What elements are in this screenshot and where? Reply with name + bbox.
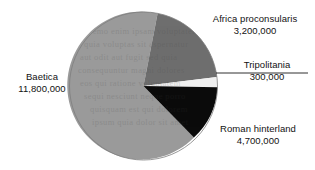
svg-text:consequuntur magni dolores: consequuntur magni dolores xyxy=(78,65,185,75)
svg-text:nemo enim ipsam voluptatem: nemo enim ipsam voluptatem xyxy=(88,26,199,36)
slice-label-roman-hinterland-name: Roman hinterland xyxy=(220,123,296,134)
slice-label-roman-hinterland-value: 4,700,000 xyxy=(202,135,314,147)
svg-text:eos qui ratione voluptatem: eos qui ratione voluptatem xyxy=(80,78,181,88)
slice-label-baetica: Baetica 11,800,000 xyxy=(2,71,82,94)
slice-label-tripolitania-name: Tripolitania xyxy=(244,59,291,70)
slice-label-africa-proconsularis-value: 3,200,000 xyxy=(196,25,314,37)
pie-chart-figure: nemo enim ipsam voluptatem quia voluptas… xyxy=(0,0,315,170)
slice-label-baetica-name: Baetica xyxy=(26,71,58,82)
svg-text:quisquam est qui dolorem: quisquam est qui dolorem xyxy=(90,104,188,114)
slice-label-baetica-value: 11,800,000 xyxy=(2,83,82,95)
svg-text:quia voluptas sit aspernatur: quia voluptas sit aspernatur xyxy=(84,39,188,49)
slice-label-africa-proconsularis: Africa proconsularis 3,200,000 xyxy=(196,13,314,36)
slice-label-roman-hinterland: Roman hinterland 4,700,000 xyxy=(202,123,314,146)
svg-text:aut odit aut fugit sed quia: aut odit aut fugit sed quia xyxy=(80,52,177,62)
slice-label-tripolitania-value: 300,000 xyxy=(224,71,310,83)
slice-label-tripolitania: Tripolitania 300,000 xyxy=(224,59,310,82)
slice-label-africa-proconsularis-name: Africa proconsularis xyxy=(213,13,297,24)
svg-text:ipsum quia dolor sit amet: ipsum quia dolor sit amet xyxy=(92,117,189,127)
svg-text:sequi nesciunt neque porro: sequi nesciunt neque porro xyxy=(84,91,186,101)
